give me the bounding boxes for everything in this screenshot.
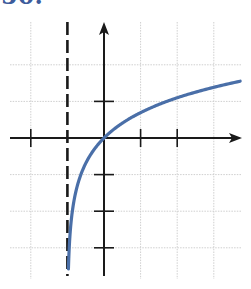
coordinate-axes <box>10 22 242 276</box>
grid-lines <box>10 22 241 279</box>
function-graph <box>0 0 251 289</box>
